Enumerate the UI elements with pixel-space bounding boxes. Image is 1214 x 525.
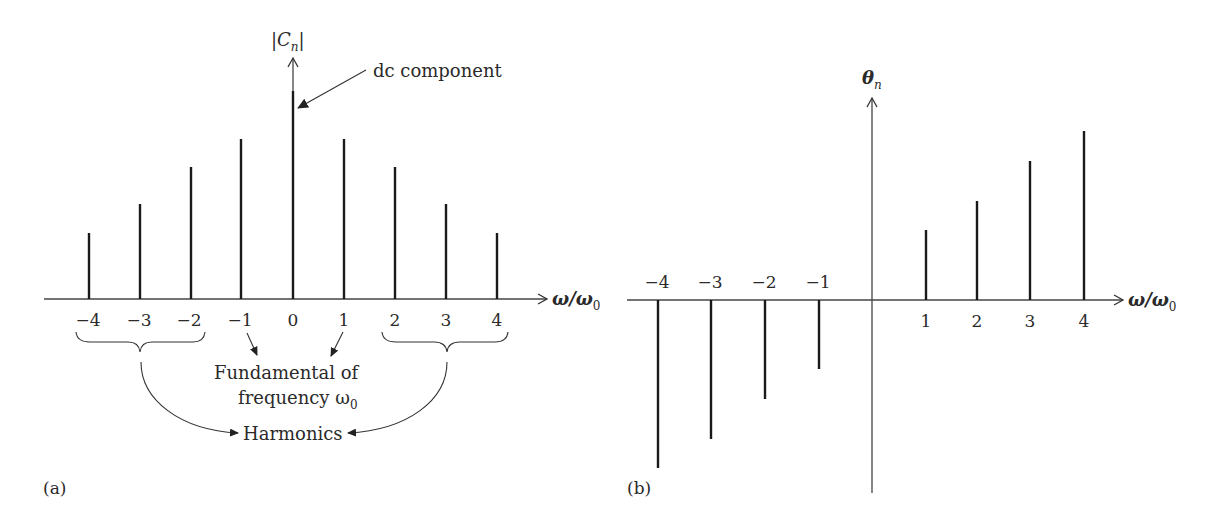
dc-component-label: dc component	[373, 60, 503, 81]
tick-label: −4	[644, 272, 669, 292]
tick-label: 4	[492, 310, 503, 330]
tick-label: 3	[441, 310, 452, 330]
tick-label: −1	[227, 310, 252, 330]
tick-label: 1	[921, 311, 932, 331]
panel-b-phase-spectrum: ω/ω0 θn −4 −3 −2 −1 1 2 3 4	[627, 67, 1177, 498]
stems-a	[89, 91, 497, 299]
fundamental-arrow-left	[247, 333, 257, 355]
tick-label: −1	[805, 272, 830, 292]
tick-label: −3	[697, 272, 722, 292]
right-brace	[382, 332, 508, 352]
tick-label: 3	[1025, 311, 1036, 331]
fundamental-label-line1: Fundamental of	[214, 362, 360, 383]
tick-label: −2	[751, 272, 776, 292]
panel-label-a: (a)	[43, 478, 66, 498]
panel-label-b: (b)	[627, 478, 651, 498]
x-axis-label-a: ω/ω0	[552, 288, 601, 313]
fundamental-label-line2: frequency ω0	[238, 387, 358, 412]
tick-label: −4	[75, 310, 100, 330]
tick-labels-a: −4 −3 −2 −1 0 1 2 3 4	[75, 310, 502, 330]
tick-label: 2	[972, 311, 983, 331]
tick-label: 1	[339, 310, 350, 330]
tick-label: 0	[288, 310, 299, 330]
tick-labels-b-positive: 1 2 3 4	[921, 311, 1090, 331]
harmonics-label: Harmonics	[243, 423, 343, 444]
harmonics-arrow-right	[348, 362, 447, 433]
x-axis-label-b: ω/ω0	[1128, 289, 1177, 314]
tick-label: 4	[1079, 311, 1090, 331]
y-axis-label-a: |Cn|	[271, 29, 305, 54]
tick-labels-b-negative: −4 −3 −2 −1	[644, 272, 830, 292]
panel-a-magnitude-spectrum: ω/ω0 |Cn| −4 −3 −2 −1 0 1 2 3	[43, 29, 601, 498]
fundamental-arrow-right	[331, 332, 343, 356]
fourier-spectrum-figure: ω/ω0 |Cn| −4 −3 −2 −1 0 1 2 3	[0, 0, 1214, 525]
tick-label: −3	[126, 310, 151, 330]
y-axis-label-b: θn	[862, 67, 882, 92]
dc-component-arrow	[298, 70, 366, 108]
left-brace	[76, 332, 205, 352]
tick-label: 2	[390, 310, 401, 330]
tick-label: −2	[176, 310, 201, 330]
